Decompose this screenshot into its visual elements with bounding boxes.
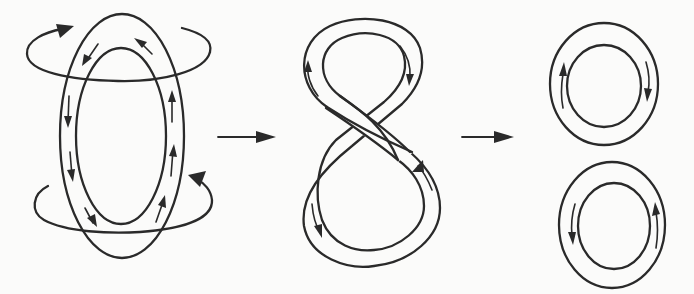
stage-2-figure-eight <box>304 19 440 267</box>
transition-arrow-1 <box>218 131 276 143</box>
arrow-bottom-left-down <box>314 224 322 238</box>
top-swirl-back <box>182 28 210 52</box>
top-rotation-arrowhead <box>56 24 74 38</box>
lower-ring-arrow-left-down <box>568 232 576 245</box>
lower-ring <box>559 162 665 288</box>
upper-ring-inner <box>567 45 641 127</box>
lower-ring-inner <box>578 183 650 269</box>
upper-ring <box>550 23 658 145</box>
upper-ring-arrow-right-down <box>644 88 652 102</box>
arrow-top-right-down <box>406 74 414 86</box>
transition-arrow-2 <box>462 131 514 143</box>
stage-3-two-rings <box>550 23 665 288</box>
lower-ring-arrow-right-up <box>652 202 660 216</box>
figure-eight-under-strand <box>304 19 440 267</box>
vortex-ring-diagram: Vortex ring evolution: an elongated ring… <box>0 0 694 294</box>
stage-1-elongated-ring <box>27 14 212 258</box>
arrow-bottom-right-up <box>412 160 424 172</box>
upper-ring-arrow-left-up <box>559 62 567 76</box>
top-rotation-arrow <box>27 24 210 81</box>
ring-inner-boundary <box>76 48 166 224</box>
